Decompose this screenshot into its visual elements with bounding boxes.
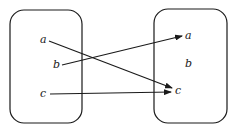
domain-element-c: c: [40, 87, 46, 100]
codomain-element-b: b: [185, 57, 192, 70]
mapping-diagram: a b c a b c: [0, 0, 236, 132]
diagram-canvas: a b c a b c: [0, 0, 236, 132]
codomain-element-c: c: [175, 84, 181, 97]
arrow-b-to-a: [62, 36, 182, 65]
domain-element-b: b: [53, 58, 60, 71]
domain-set-box: [10, 10, 82, 123]
arrow-c-to-c: [50, 92, 171, 94]
domain-element-a: a: [40, 33, 47, 46]
codomain-element-a: a: [185, 29, 192, 42]
